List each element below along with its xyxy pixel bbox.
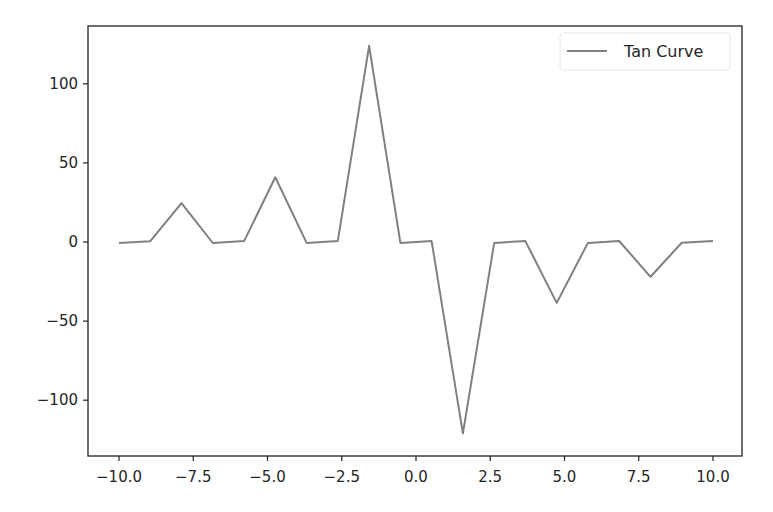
chart-canvas: −10.0−7.5−5.0−2.50.02.55.07.510.0 100500… — [0, 0, 773, 512]
y-tick-label: 50 — [59, 154, 78, 172]
x-tick-label: 0.0 — [404, 468, 428, 486]
x-tick-label: 5.0 — [553, 468, 577, 486]
legend: Tan Curve — [560, 33, 730, 70]
y-tick-label: −50 — [46, 312, 78, 330]
x-tick-label: 10.0 — [696, 468, 729, 486]
x-tick-label: −2.5 — [324, 468, 360, 486]
y-tick-label: 0 — [68, 233, 78, 251]
x-tick-label: −7.5 — [175, 468, 211, 486]
legend-label: Tan Curve — [623, 42, 703, 61]
plot-area — [119, 46, 713, 434]
y-axis: 100500−50−100 — [37, 75, 88, 409]
x-tick-label: 2.5 — [478, 468, 502, 486]
y-tick-label: 100 — [49, 75, 78, 93]
axes-frame — [88, 26, 742, 456]
x-axis: −10.0−7.5−5.0−2.50.02.55.07.510.0 — [96, 456, 730, 486]
y-tick-label: −100 — [37, 391, 78, 409]
x-tick-label: 7.5 — [627, 468, 651, 486]
x-tick-label: −5.0 — [249, 468, 285, 486]
series-line-tan-curve — [119, 46, 713, 434]
x-tick-label: −10.0 — [96, 468, 142, 486]
